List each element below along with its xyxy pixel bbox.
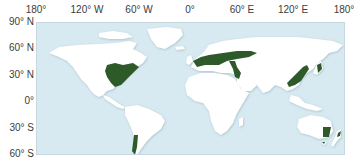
maritime-southeast-asia [289, 95, 323, 111]
lat-label-30s: 30° S [9, 123, 34, 133]
lat-label-90n: 90° N [9, 17, 34, 27]
lon-label-180e: 180° [334, 5, 355, 15]
landmasses [49, 27, 343, 155]
madagascar [239, 117, 243, 127]
world-map-graphic [37, 23, 345, 155]
central-america [103, 95, 125, 109]
lon-label-120w: 120° W [71, 5, 104, 15]
lat-label-60s: 60° S [9, 149, 34, 159]
lon-label-0: 0° [185, 5, 195, 15]
lon-label-180w: 180° [26, 5, 47, 15]
lon-label-120e: 120° E [278, 5, 308, 15]
south-america [125, 105, 165, 155]
world-map [36, 22, 345, 155]
british-isles [186, 55, 193, 65]
lon-label-60e: 60° E [230, 5, 255, 15]
greenland [147, 27, 183, 49]
lat-label-60n: 60° N [9, 43, 34, 53]
iceland [175, 46, 185, 50]
lat-label-0: 0° [24, 96, 34, 106]
lat-label-30n: 30° N [9, 70, 34, 80]
lon-label-60w: 60° W [125, 5, 152, 15]
arctic-islands [99, 31, 133, 39]
